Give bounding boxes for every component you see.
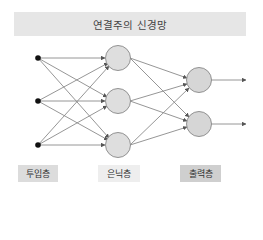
hidden-nodes [106,46,131,158]
output-layer-label: 출력층 [180,165,221,182]
hidden-node [106,89,131,114]
input-hidden-edges [38,58,109,145]
output-node [187,68,212,93]
hidden-layer-label: 은닉층 [98,165,140,182]
output-arrows [211,80,246,124]
hidden-node [106,46,131,71]
input-node [35,142,41,148]
input-nodes [35,55,41,148]
output-node [187,112,212,137]
input-layer-label: 투입층 [18,165,58,182]
input-node [35,55,41,61]
hidden-output-edges [130,58,189,145]
hidden-node [106,133,131,158]
input-node [35,98,41,104]
output-nodes [187,68,212,137]
